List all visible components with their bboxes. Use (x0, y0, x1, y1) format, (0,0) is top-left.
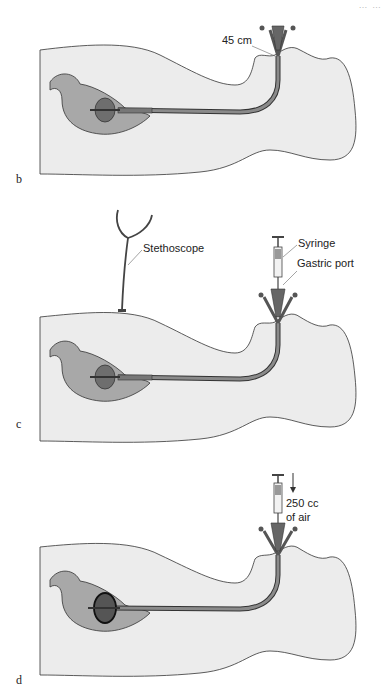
label-air-volume-line2: of air (286, 511, 310, 523)
label-45cm: 45 cm (222, 34, 252, 46)
panel-b: 45 cm b (0, 0, 384, 200)
panel-letter-d: d (16, 673, 22, 688)
panel-d-illustration (0, 465, 384, 695)
down-arrow-icon (290, 473, 296, 493)
label-gastric-port: Gastric port (297, 257, 354, 269)
panel-letter-c: c (16, 417, 21, 432)
label-stethoscope: Stethoscope (143, 242, 204, 254)
stethoscope-icon (117, 210, 152, 238)
panel-letter-b: b (16, 172, 22, 187)
label-syringe: Syringe (298, 237, 335, 249)
panel-b-illustration (0, 0, 384, 200)
syringe-icon (272, 475, 284, 523)
syringe-icon (272, 237, 284, 289)
panel-c: Stethoscope Syringe Gastric port c (0, 205, 384, 445)
label-air-volume-line1: 250 cc (286, 497, 318, 509)
panel-d: 250 cc of air d (0, 465, 384, 695)
